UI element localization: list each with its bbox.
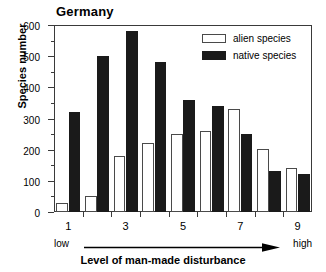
x-tick bbox=[197, 212, 198, 217]
bar-alien-level-1 bbox=[56, 203, 67, 212]
y-tick-major: 500 bbox=[48, 56, 54, 57]
disturbance-scale: low high bbox=[54, 238, 312, 252]
y-tick-label: 100 bbox=[23, 176, 40, 187]
y-tick-label: 500 bbox=[23, 52, 40, 63]
y-tick-label: 200 bbox=[23, 145, 40, 156]
bar-native-level-1 bbox=[69, 112, 80, 212]
legend-label-alien: alien species bbox=[233, 33, 291, 44]
chart-figure: Germany Species number 01002003004005006… bbox=[0, 0, 326, 272]
y-tick-label: 600 bbox=[23, 21, 40, 32]
bar-alien-level-7 bbox=[228, 109, 239, 212]
x-tick-label: 3 bbox=[123, 220, 129, 232]
y-tick-minor bbox=[51, 72, 55, 73]
x-tick bbox=[140, 212, 141, 217]
x-tick bbox=[83, 212, 84, 217]
bar-alien-level-6 bbox=[200, 131, 211, 212]
y-tick-major: 400 bbox=[48, 87, 54, 88]
bar-native-level-7 bbox=[241, 134, 252, 212]
x-tick bbox=[283, 212, 284, 217]
x-tick-label: 1 bbox=[65, 220, 71, 232]
y-tick-major: 0 bbox=[48, 212, 54, 213]
bar-alien-level-5 bbox=[171, 134, 182, 212]
bar-native-level-8 bbox=[269, 171, 280, 212]
x-tick bbox=[169, 212, 170, 217]
y-tick-label: 300 bbox=[23, 114, 40, 125]
legend-swatch-alien-icon bbox=[202, 34, 226, 43]
y-tick-label: 400 bbox=[23, 83, 40, 94]
x-axis-label: Level of man-made disturbance bbox=[0, 254, 326, 266]
x-tick-label: 7 bbox=[237, 220, 243, 232]
right-arrow-icon bbox=[84, 243, 280, 252]
legend-item-alien: alien species bbox=[202, 31, 304, 45]
bar-native-level-3 bbox=[126, 31, 137, 212]
legend-item-native: native species bbox=[202, 48, 304, 62]
x-tick-label: 5 bbox=[180, 220, 186, 232]
chart-title: Germany bbox=[56, 4, 114, 19]
y-tick-minor bbox=[51, 134, 55, 135]
x-tick bbox=[226, 212, 227, 217]
x-tick-label: 9 bbox=[295, 220, 301, 232]
legend-swatch-native-icon bbox=[202, 51, 226, 60]
chart-legend: alien species native species bbox=[196, 27, 308, 66]
y-tick-major: 200 bbox=[48, 150, 54, 151]
y-tick-minor bbox=[51, 103, 55, 104]
y-tick-label: 0 bbox=[34, 208, 40, 219]
bar-native-level-9 bbox=[298, 174, 309, 212]
bar-native-level-4 bbox=[155, 62, 166, 212]
y-tick-major: 600 bbox=[48, 25, 54, 26]
y-tick-major: 100 bbox=[48, 181, 54, 182]
bar-alien-level-2 bbox=[85, 196, 96, 212]
x-tick bbox=[255, 212, 256, 217]
bar-native-level-5 bbox=[183, 100, 194, 212]
y-tick-minor bbox=[51, 41, 55, 42]
scale-label-high: high bbox=[293, 238, 312, 249]
x-tick bbox=[111, 212, 112, 217]
bar-native-level-2 bbox=[97, 56, 108, 212]
scale-label-low: low bbox=[54, 238, 69, 249]
y-tick-minor bbox=[51, 196, 55, 197]
bar-alien-level-4 bbox=[142, 143, 153, 212]
y-tick-major: 300 bbox=[48, 119, 54, 120]
legend-label-native: native species bbox=[233, 50, 296, 61]
bar-alien-level-8 bbox=[257, 149, 268, 212]
y-tick-minor bbox=[51, 165, 55, 166]
bar-alien-level-9 bbox=[286, 168, 297, 212]
bar-alien-level-3 bbox=[114, 156, 125, 212]
bar-native-level-6 bbox=[212, 106, 223, 212]
